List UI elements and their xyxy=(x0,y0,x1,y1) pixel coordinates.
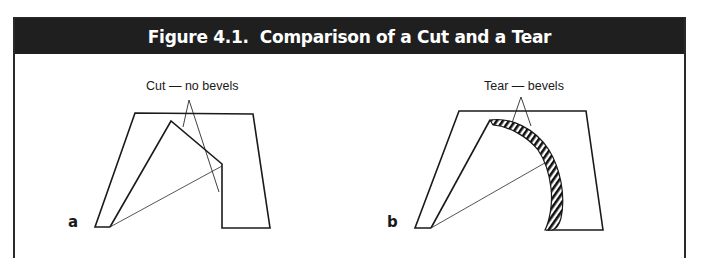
panel-b: Tear — bevels xyxy=(415,79,603,230)
panel-label-b: b xyxy=(387,213,398,231)
panel-label-a: a xyxy=(68,213,78,231)
panel-a: Cut — no bevels a xyxy=(68,79,270,231)
cut-shape xyxy=(95,113,270,228)
caption-cut: Cut — no bevels xyxy=(146,79,238,93)
bevel-hatch xyxy=(490,120,563,230)
caption-tear: Tear — bevels xyxy=(484,79,564,93)
